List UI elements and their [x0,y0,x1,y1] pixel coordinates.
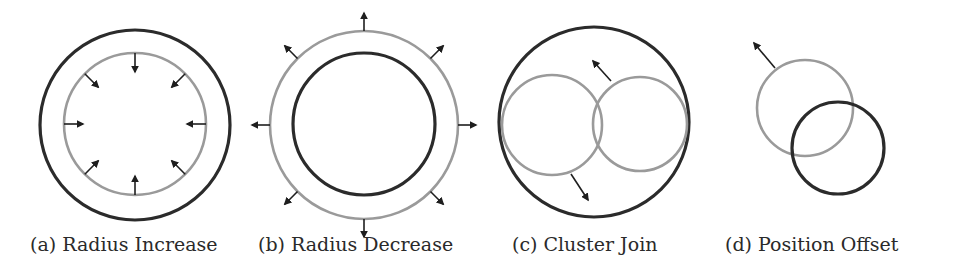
arrow-icon [172,161,185,174]
panel-d-position-offset [754,43,884,194]
circle-inner-dark [293,53,435,195]
arrow-icon [593,61,611,81]
circle-left-gray [502,75,602,175]
caption-b: (b) Radius Decrease [258,233,453,255]
arrow-icon [430,191,443,204]
arrow-icon [85,74,98,87]
arrow-icon [285,191,298,204]
panel-a-radius-increase [40,30,230,220]
circle-offset-dark [792,102,884,194]
arrow-icon [285,46,298,59]
arrow-icon [571,174,588,200]
arrow-icon [85,161,98,174]
arrow-icon [172,74,185,87]
arrow-icon [430,46,443,59]
caption-a: (a) Radius Increase [30,233,218,255]
caption-c: (c) Cluster Join [512,233,657,255]
circle-original-gray [757,60,853,156]
arrow-icon [754,43,775,68]
panel-b-radius-decrease [252,13,476,237]
panel-c-cluster-join [499,27,689,217]
circle-outer-gray [270,31,458,219]
circle-right-gray [593,77,687,171]
caption-d: (d) Position Offset [725,233,898,255]
